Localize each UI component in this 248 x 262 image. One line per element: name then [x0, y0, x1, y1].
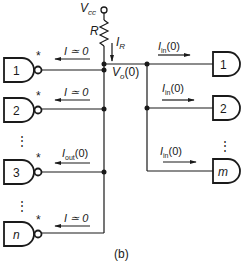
driver-n-current-label: I ≃ 0: [64, 212, 89, 224]
resistor-icon: [100, 20, 108, 46]
svg-text:*: *: [36, 89, 41, 103]
driver-gate-3: 3 *: [4, 151, 42, 184]
svg-text:⋮: ⋮: [16, 134, 28, 148]
load-1-current-label: Iin(0): [158, 40, 180, 54]
load-gate-m: m: [213, 159, 240, 183]
driver-gate-1: 1 *: [4, 49, 42, 82]
svg-text:*: *: [36, 151, 41, 165]
load-gate-1: 1: [213, 52, 240, 76]
svg-text:2: 2: [220, 102, 227, 116]
svg-text:⋮: ⋮: [16, 199, 28, 213]
svg-text:2: 2: [13, 104, 20, 118]
svg-text:m: m: [218, 165, 228, 179]
driver-1-current-label: I ≃ 0: [64, 45, 89, 57]
load-2-current-label: Iin(0): [162, 82, 184, 96]
svg-text:1: 1: [220, 58, 227, 72]
vcc-supply: Vcc: [80, 1, 107, 17]
svg-text:*: *: [36, 213, 41, 227]
load-gate-2: 2: [213, 96, 240, 120]
driver-gate-n: n *: [4, 213, 42, 246]
svg-text:⋮: ⋮: [219, 139, 231, 153]
open-collector-wired-and-diagram: Vcc R IR Vo(0) 1 * I ≃ 0 2 * I ≃ 0 ⋮: [0, 0, 248, 262]
vo-label: Vo(0): [112, 65, 139, 81]
driver-gate-2: 2 *: [4, 89, 42, 122]
svg-text:1: 1: [13, 64, 20, 78]
vcc-label: Vcc: [80, 1, 96, 17]
svg-text:*: *: [36, 49, 41, 63]
driver-3-current-label: Iout(0): [62, 147, 88, 161]
ir-label: IR: [116, 35, 125, 51]
svg-text:n: n: [13, 228, 20, 242]
figure-caption: (b): [114, 247, 129, 261]
driver-2-current-label: I ≃ 0: [64, 86, 89, 98]
svg-text:3: 3: [13, 166, 20, 180]
resistor-label: R: [90, 24, 99, 38]
load-m-current-label: Iin(0): [160, 145, 182, 159]
vcc-terminal-icon: [101, 7, 107, 13]
